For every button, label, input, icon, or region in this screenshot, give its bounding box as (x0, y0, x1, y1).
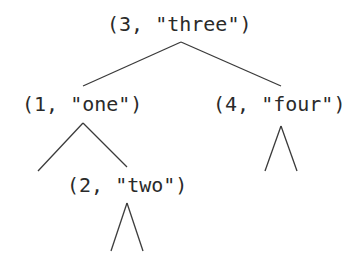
edge-3-to-4 (181, 42, 281, 86)
tree-node-2: (2, "two") (67, 175, 187, 195)
tree-edges (0, 0, 361, 266)
tree-node-root-3: (3, "three") (107, 14, 252, 34)
edge-4-right-empty (281, 126, 297, 171)
edge-1-to-2 (83, 123, 127, 167)
edge-4-left-empty (265, 126, 281, 171)
edge-2-right-empty (127, 203, 143, 251)
edge-3-to-1 (83, 42, 181, 86)
edge-1-left-empty (38, 123, 83, 171)
edge-2-left-empty (111, 203, 127, 251)
tree-node-1: (1, "one") (22, 94, 142, 114)
tree-node-4: (4, "four") (213, 94, 345, 114)
